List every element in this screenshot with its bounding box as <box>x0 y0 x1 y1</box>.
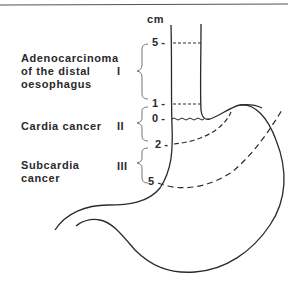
scale-mark-5-top: 5 - <box>152 36 165 48</box>
top-border <box>0 4 288 5</box>
scale-mark-0: 0 - <box>152 112 165 124</box>
category-I-label: Adenocarcinoma of the distal oesophagus <box>21 52 119 91</box>
category-III-line-1: Subcardia <box>21 159 80 172</box>
level-5cm-curve <box>158 110 282 188</box>
category-I-line-2: of the distal <box>21 65 119 78</box>
category-III-roman: III <box>117 160 128 172</box>
brace-I <box>137 44 148 99</box>
scale-mark-2: 2 - <box>155 138 168 150</box>
category-III-line-2: cancer <box>21 172 80 185</box>
category-I-roman: I <box>117 65 121 77</box>
category-II-label: Cardia cancer <box>21 120 102 133</box>
category-II-roman: II <box>117 120 124 132</box>
category-III-label: Subcardia cancer <box>21 159 80 185</box>
scale-mark-5-bottom: 5 <box>148 175 154 187</box>
z-line-wavy <box>172 118 204 120</box>
unit-label: cm <box>147 13 164 26</box>
scale-mark-1: 1 - <box>152 97 165 109</box>
category-II-line-1: Cardia cancer <box>21 120 102 133</box>
category-I-line-3: oesophagus <box>21 78 119 91</box>
category-I-line-1: Adenocarcinoma <box>21 52 119 65</box>
brace-II <box>137 107 148 141</box>
stomach-diagram <box>0 0 300 286</box>
brace-III <box>137 148 148 183</box>
